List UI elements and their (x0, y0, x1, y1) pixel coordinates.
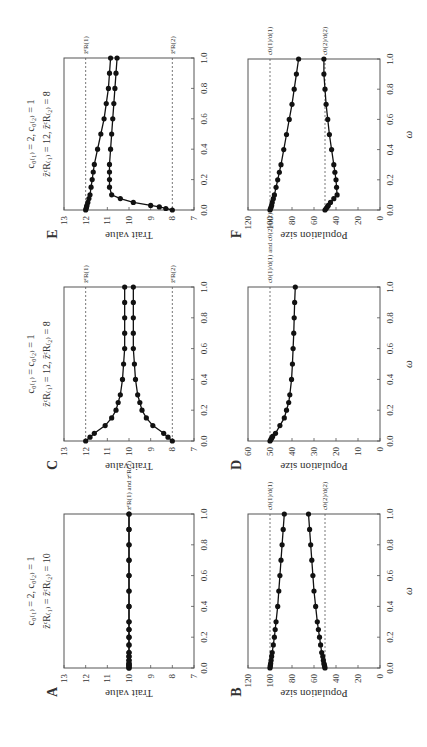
data-point (273, 627, 278, 632)
data-point (126, 527, 131, 532)
omega-tick-label: 1.0 (385, 281, 395, 293)
series-line (133, 287, 172, 441)
panel-letter: C (45, 460, 60, 470)
data-point (327, 132, 332, 137)
omega-tick-label: 0.2 (385, 632, 395, 643)
data-point (120, 377, 125, 382)
data-point (88, 185, 93, 190)
data-point (335, 192, 340, 197)
axis-label-value: Trait value (105, 688, 153, 700)
data-point (277, 423, 282, 428)
panel-header-line2: z̄ᶜR₍₁₎ = 12, z̄ᶜR₍₂₎ = 8 (41, 91, 52, 176)
data-point (126, 604, 131, 609)
data-point (131, 346, 136, 351)
data-point (270, 650, 275, 655)
data-point (321, 72, 326, 77)
data-point (122, 346, 127, 351)
data-point (317, 635, 322, 640)
data-point (273, 619, 278, 624)
data-point (126, 619, 131, 624)
data-point (163, 206, 168, 211)
data-point (332, 170, 337, 175)
value-tick-label: 40 (331, 674, 341, 684)
omega-tick-label: 1.0 (385, 508, 395, 520)
data-point (280, 542, 285, 547)
data-point (95, 147, 100, 152)
data-point (165, 435, 170, 440)
data-point (126, 542, 131, 547)
plot-frame (64, 58, 194, 210)
data-point (284, 408, 289, 413)
data-point (277, 573, 282, 578)
value-tick-label: 20 (353, 216, 363, 226)
omega-tick-label: 0.6 (385, 113, 395, 125)
data-point (98, 131, 103, 136)
data-point (126, 588, 131, 593)
data-point (308, 542, 313, 547)
omega-tick-label: 0.4 (199, 373, 209, 385)
panel-c: 789101112130.00.20.40.60.81.0Trait value… (25, 265, 210, 474)
data-point (291, 331, 296, 336)
data-point (92, 431, 97, 436)
value-tick-label: 10 (124, 216, 134, 226)
value-tick-label: 10 (124, 674, 134, 684)
axis-label-omega: ω (402, 587, 414, 595)
data-point (131, 331, 136, 336)
value-tick-label: 12 (81, 447, 91, 456)
reference-label: c0(1)/d(1) (266, 481, 274, 510)
data-point (108, 55, 113, 60)
data-point (170, 438, 175, 443)
data-point (325, 117, 330, 122)
data-point (113, 408, 118, 413)
data-point (131, 284, 136, 289)
data-point (139, 408, 144, 413)
data-point (292, 87, 297, 92)
omega-tick-label: 0.4 (199, 600, 209, 612)
data-point (121, 361, 126, 366)
data-point (291, 346, 296, 351)
omega-tick-label: 0.8 (199, 539, 209, 551)
data-point (329, 147, 334, 152)
data-point (126, 511, 131, 516)
data-point (278, 162, 283, 167)
data-point (107, 177, 112, 182)
omega-tick-label: 0.0 (199, 204, 209, 216)
axis-label-value: Trait value (105, 230, 153, 242)
value-tick-label: 100 (265, 216, 275, 230)
data-point (319, 650, 324, 655)
data-point (275, 177, 280, 182)
panel-letter: D (229, 460, 244, 470)
axis-label-omega: ω (402, 130, 414, 138)
data-point (284, 132, 289, 137)
data-point (108, 147, 113, 152)
panel-header-line1: c₀₍₁₎ = 2, c₀₍₂₎ = 1 (25, 557, 36, 626)
omega-tick-label: 0.0 (199, 662, 209, 674)
omega-tick-label: 0.4 (199, 143, 209, 155)
omega-tick-label: 0.8 (385, 312, 395, 324)
data-point (126, 642, 131, 647)
data-point (109, 131, 114, 136)
data-point (309, 558, 314, 563)
series-line (86, 287, 125, 441)
data-point (126, 627, 131, 632)
data-point (122, 284, 127, 289)
data-point (126, 635, 131, 640)
value-tick-label: 11 (102, 216, 112, 225)
value-tick-label: 60 (309, 216, 319, 226)
data-point (161, 431, 166, 436)
data-point (126, 558, 131, 563)
data-point (107, 71, 112, 76)
value-tick-label: 8 (167, 216, 177, 221)
data-point (318, 642, 323, 647)
data-point (313, 604, 318, 609)
omega-tick-label: 1.0 (385, 53, 395, 65)
axis-label-value: Population size (280, 461, 348, 473)
omega-tick-label: 0.0 (199, 435, 209, 447)
data-point (111, 101, 116, 106)
data-point (273, 185, 278, 190)
value-tick-label: 30 (309, 447, 319, 457)
data-point (311, 588, 316, 593)
data-point (131, 300, 136, 305)
data-point (286, 400, 291, 405)
panel-letter: E (45, 229, 60, 238)
